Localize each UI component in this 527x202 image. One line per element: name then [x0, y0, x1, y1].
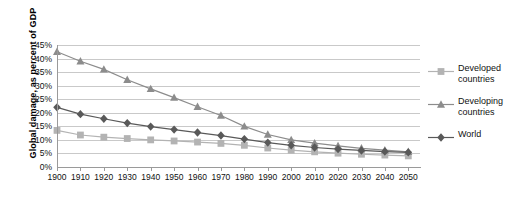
y-axis-tick-label: 40% — [4, 55, 52, 63]
data-point-marker — [147, 136, 154, 143]
legend-marker-icon — [428, 99, 454, 110]
legend-item[interactable]: Developingcountries — [428, 96, 527, 118]
plot-area — [57, 45, 420, 167]
x-axis-tick — [268, 167, 269, 171]
data-point-marker — [194, 128, 202, 136]
data-point-marker — [100, 115, 108, 123]
y-axis-tick-label: 45% — [4, 41, 52, 49]
data-point-marker — [77, 110, 85, 118]
data-point-marker — [123, 76, 131, 83]
data-point-marker — [77, 132, 84, 139]
y-axis-tick-label: 10% — [4, 136, 52, 144]
legend-label: Developingcountries — [458, 96, 527, 118]
x-axis-tick — [408, 167, 409, 171]
chart-container: Global damage, as percent of GDP 0%5%10%… — [0, 0, 527, 202]
chart-legend: DevelopedcountriesDevelopingcountriesWor… — [428, 63, 527, 160]
x-axis-tick — [221, 167, 222, 171]
y-axis-tick-label: 20% — [4, 109, 52, 117]
y-axis-tick-label: 30% — [4, 82, 52, 90]
x-axis-ticks — [57, 167, 421, 171]
series-line — [57, 107, 408, 152]
x-axis-tick — [385, 167, 386, 171]
legend-item[interactable]: Developedcountries — [428, 63, 527, 85]
data-point-marker — [218, 140, 225, 147]
x-axis-tick — [291, 167, 292, 171]
y-axis-tick-label: 25% — [4, 95, 52, 103]
x-axis-tick — [174, 167, 175, 171]
data-point-marker — [100, 134, 107, 141]
data-point-marker — [147, 122, 155, 130]
legend-marker-icon — [428, 66, 454, 77]
x-axis-tick — [362, 167, 363, 171]
x-axis-tick — [244, 167, 245, 171]
data-point-marker — [123, 119, 131, 127]
x-axis-tick — [338, 167, 339, 171]
y-axis-line — [57, 45, 58, 168]
data-point-marker — [240, 122, 248, 129]
x-axis-tick — [127, 167, 128, 171]
series-line — [57, 130, 408, 155]
legend-item[interactable]: World — [428, 129, 527, 149]
x-axis-tick — [315, 167, 316, 171]
x-axis-tick-labels: 1900191019201930194019501960197019801990… — [0, 172, 460, 186]
legend-marker-icon — [428, 132, 454, 143]
data-point-marker — [194, 139, 201, 146]
x-axis-tick — [80, 167, 81, 171]
y-axis-tick-label: 15% — [4, 122, 52, 130]
x-axis-tick — [57, 167, 58, 171]
x-axis-tick-label: 2050 — [393, 172, 423, 182]
legend-label: Developedcountries — [458, 63, 527, 85]
y-axis-tick-labels: 0%5%10%15%20%25%30%35%40%45% — [0, 45, 52, 167]
x-axis-tick — [198, 167, 199, 171]
data-point-marker — [217, 131, 225, 139]
y-axis-tick-label: 5% — [4, 149, 52, 157]
data-point-marker — [171, 138, 178, 145]
y-axis-tick-label: 35% — [4, 68, 52, 76]
x-axis-tick — [104, 167, 105, 171]
x-axis-tick — [151, 167, 152, 171]
series-lines — [57, 45, 420, 167]
data-point-marker — [170, 125, 178, 133]
data-point-marker — [124, 135, 131, 142]
legend-label: World — [458, 129, 527, 140]
y-axis-tick-label: 0% — [4, 163, 52, 171]
